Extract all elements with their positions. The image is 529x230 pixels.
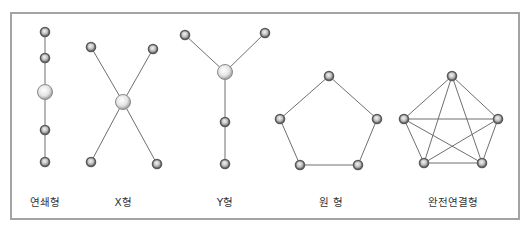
edge — [404, 119, 424, 163]
node-icon — [41, 158, 50, 167]
node-icon — [221, 160, 230, 169]
topology-groups: 연쇄형X형Y형원 형완전연결형 — [30, 28, 503, 209]
node-icon — [261, 29, 270, 38]
node-icon — [87, 43, 96, 52]
hub-node-icon — [38, 85, 53, 100]
edge — [424, 119, 498, 163]
node-icon — [153, 160, 162, 169]
edge — [91, 47, 123, 102]
topology-label-y: Y형 — [216, 196, 233, 208]
node-icon — [87, 158, 96, 167]
node-icon — [354, 161, 363, 170]
node-icon — [448, 72, 457, 81]
topology-label-chain: 연쇄형 — [30, 196, 60, 208]
edge — [329, 76, 377, 119]
node-icon — [41, 126, 50, 135]
topology-ring: 원 형 — [276, 72, 382, 209]
edge — [123, 102, 157, 164]
edge — [225, 33, 265, 72]
hub-node-icon — [218, 65, 233, 80]
node-icon — [221, 118, 230, 127]
edge — [280, 76, 329, 119]
node-icon — [325, 72, 334, 81]
topology-label-full: 완전연결형 — [428, 196, 478, 208]
topology-label-ring: 원 형 — [319, 196, 342, 208]
topology-full: 완전연결형 — [400, 72, 503, 209]
node-icon — [296, 161, 305, 170]
topology-label-x: X형 — [114, 196, 131, 208]
edge — [185, 35, 225, 72]
node-icon — [478, 159, 487, 168]
node-icon — [181, 31, 190, 40]
node-icon — [149, 45, 158, 54]
topology-x: X형 — [87, 43, 162, 209]
node-icon — [494, 115, 503, 124]
node-icon — [41, 28, 50, 37]
edge — [358, 119, 377, 165]
node-icon — [41, 54, 50, 63]
edge — [123, 49, 153, 102]
edge — [280, 119, 300, 165]
edge — [404, 119, 482, 163]
node-icon — [420, 159, 429, 168]
node-icon — [373, 115, 382, 124]
topology-chain: 연쇄형 — [30, 28, 60, 209]
network-topology-diagram: 연쇄형X형Y형원 형완전연결형 — [0, 0, 529, 230]
node-icon — [400, 115, 409, 124]
edge — [482, 119, 498, 163]
hub-node-icon — [116, 95, 131, 110]
edge — [91, 102, 123, 162]
node-icon — [276, 115, 285, 124]
topology-y: Y형 — [181, 29, 270, 209]
